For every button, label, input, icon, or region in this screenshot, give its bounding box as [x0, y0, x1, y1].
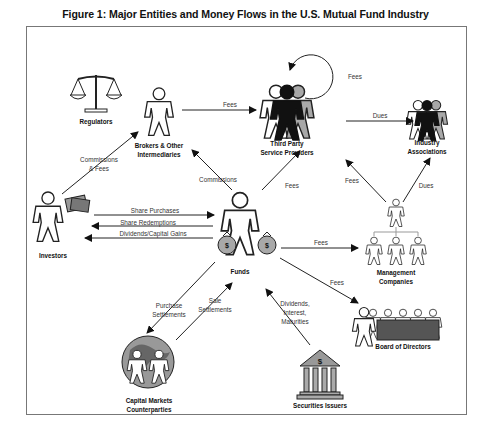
- capital-markets-label-line2: Counterparties: [118, 405, 181, 414]
- management-org-chart-icon: [366, 199, 427, 264]
- diagram-canvas: $ $ $: [0, 0, 491, 438]
- regulators-label: Regulators: [69, 117, 123, 126]
- investor-person-icon: [33, 192, 63, 241]
- mgmt-industry-dues-label: Dues: [416, 181, 436, 190]
- funds-mgmt-fees-label: Fees: [311, 238, 331, 247]
- money-bag-icon: $: [258, 232, 276, 254]
- service-providers-group-icon: [260, 85, 314, 140]
- investors-brokers-label-line2: & Fees: [77, 164, 122, 173]
- purchase-settlements-label-line1: Purchase: [147, 301, 192, 310]
- brokers-label-line2: Intermediaries: [128, 150, 191, 159]
- cash-bundle-icon: [65, 195, 90, 212]
- industry-label-line1: Industry: [400, 138, 454, 147]
- broker-person-icon: [145, 88, 174, 135]
- svg-text:$: $: [265, 242, 269, 250]
- funds-brokers-commissions-label: Commissions: [196, 175, 241, 184]
- brokers-label-line1: Brokers & Other: [128, 141, 191, 150]
- brokers-tp-fees-label: Fees: [219, 100, 241, 109]
- purchase-settlements-label-line2: Settlements: [147, 310, 192, 319]
- funds-tp-fees-label: Fees: [283, 181, 301, 190]
- capital-markets-label-line1: Capital Markets: [118, 396, 181, 405]
- tp-industry-dues-label: Dues: [369, 111, 391, 120]
- globe-handshake-icon: [122, 336, 174, 388]
- share-purchases-label: Share Purchases: [124, 206, 187, 215]
- funds-label: Funds: [224, 267, 256, 276]
- scales-icon: [70, 75, 122, 112]
- investors-brokers-label-line1: Commissions: [77, 155, 122, 164]
- sale-settlements-label-line2: Settlements: [193, 305, 238, 314]
- management-label-line1: Management: [369, 268, 423, 277]
- board-label: Board of Directors: [367, 342, 439, 351]
- issuer-flows-label-line1: Dividends,: [273, 299, 318, 308]
- third-party-label-line1: Third Party: [256, 139, 319, 148]
- svg-text:$: $: [225, 242, 229, 250]
- share-redemptions-label: Share Redemptions: [114, 218, 182, 227]
- svg-text:$: $: [318, 357, 323, 366]
- dividends-capital-gains-label: Dividends/Capital Gains: [113, 229, 194, 238]
- securities-issuers-label: Securities Issuers: [284, 401, 356, 410]
- issuer-flows-label-line3: Maturities: [273, 317, 318, 326]
- mgmt-tp-fees-label: Fees: [343, 176, 361, 185]
- board-of-directors-icon: [352, 308, 441, 346]
- third-party-label-line2: Service Providers: [248, 148, 325, 157]
- bank-building-icon: $: [297, 350, 343, 399]
- issuer-flows-label-line2: Interest,: [273, 308, 318, 317]
- tp-self-fees-label: Fees: [346, 72, 364, 81]
- management-label-line2: Companies: [369, 277, 423, 286]
- funds-board-fees-label: Fees: [327, 278, 347, 287]
- industry-label-line2: Associations: [400, 147, 454, 156]
- investors-label: Investors: [32, 251, 73, 260]
- sale-settlements-label-line1: Sale: [193, 296, 238, 305]
